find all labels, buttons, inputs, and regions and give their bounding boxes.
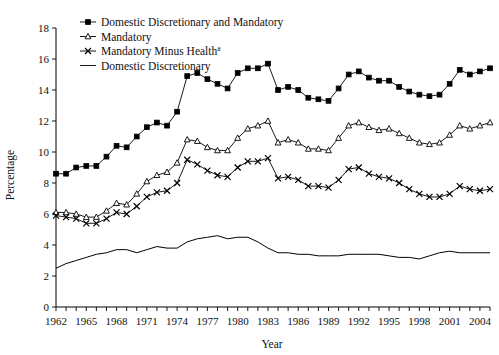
data-point [457, 67, 462, 72]
legend-item-2[interactable]: Mandatory Minus Healtha [80, 44, 221, 58]
chart-background [0, 0, 499, 355]
data-point [114, 143, 119, 148]
data-point [165, 123, 170, 128]
x-tick-label: 1977 [196, 315, 219, 327]
data-point [366, 75, 371, 80]
data-point [336, 86, 341, 91]
legend-label: Mandatory [101, 31, 152, 44]
x-tick-label: 1983 [257, 315, 280, 327]
data-point [245, 66, 250, 71]
data-point [124, 145, 129, 150]
data-point [387, 78, 392, 83]
data-point [266, 61, 271, 66]
data-point [215, 81, 220, 86]
x-tick-label: 1965 [75, 315, 98, 327]
data-point [447, 81, 452, 86]
data-point [417, 92, 422, 97]
data-point [286, 85, 291, 90]
data-point [478, 69, 483, 74]
y-tick-label: 16 [38, 53, 50, 65]
data-point [467, 72, 472, 77]
data-point [488, 66, 493, 71]
data-point [235, 71, 240, 76]
data-point [74, 165, 79, 170]
x-tick-label: 1992 [348, 315, 370, 327]
x-tick-label: 1980 [227, 315, 250, 327]
y-tick-label: 10 [38, 146, 50, 158]
data-point [84, 164, 89, 169]
data-point [437, 92, 442, 97]
y-tick-label: 0 [44, 301, 50, 313]
data-point [225, 86, 230, 91]
legend-label: Domestic Discretionary [101, 60, 211, 73]
data-point [104, 154, 109, 159]
chart-container: 024681012141618 196219651968197119741977… [0, 0, 499, 355]
y-tick-label: 14 [38, 84, 50, 96]
x-tick-label: 1962 [45, 315, 67, 327]
line-chart: 024681012141618 196219651968197119741977… [0, 0, 499, 355]
legend-label: Domestic Discretionary and Mandatory [101, 16, 284, 29]
x-tick-label: 1974 [166, 315, 189, 327]
data-point [86, 20, 91, 25]
y-tick-label: 2 [44, 270, 50, 282]
data-point [407, 89, 412, 94]
data-point [255, 66, 260, 71]
data-point [356, 69, 361, 74]
data-point [346, 72, 351, 77]
y-tick-label: 6 [44, 208, 50, 220]
data-point [134, 134, 139, 139]
y-axis-title: Percentage [4, 150, 17, 200]
x-axis-title: Year [261, 338, 282, 350]
x-tick-label: 1986 [287, 315, 310, 327]
data-point [276, 88, 281, 93]
y-tick-label: 4 [44, 239, 50, 251]
data-point [155, 120, 160, 125]
data-point [377, 78, 382, 83]
x-tick-label: 1968 [106, 315, 129, 327]
data-point [205, 77, 210, 82]
y-tick-label: 12 [38, 115, 49, 127]
x-tick-label: 2001 [439, 315, 461, 327]
data-point [397, 85, 402, 90]
x-tick-label: 1998 [408, 315, 431, 327]
x-tick-label: 2004 [469, 315, 492, 327]
data-point [144, 125, 149, 130]
data-point [316, 97, 321, 102]
data-point [175, 109, 180, 114]
data-point [54, 171, 59, 176]
data-point [296, 88, 301, 93]
legend-item-0[interactable]: Domestic Discretionary and Mandatory [80, 16, 284, 29]
legend-label: Mandatory Minus Healtha [101, 44, 221, 58]
data-point [326, 98, 331, 103]
y-tick-label: 8 [44, 177, 50, 189]
x-tick-label: 1971 [136, 315, 158, 327]
data-point [64, 171, 69, 176]
y-tick-label: 18 [38, 22, 50, 34]
x-tick-label: 1989 [318, 315, 341, 327]
x-tick-label: 1995 [378, 315, 401, 327]
data-point [185, 74, 190, 79]
data-point [94, 164, 99, 169]
data-point [306, 95, 311, 100]
data-point [427, 94, 432, 99]
